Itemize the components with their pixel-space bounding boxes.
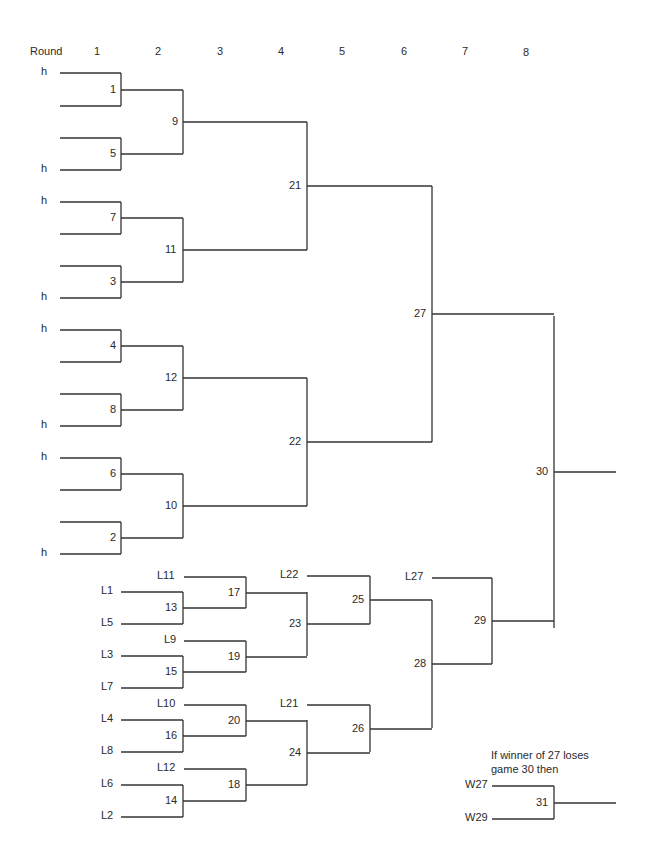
game-26-number: 26 [352,722,364,734]
round-header-label: Round [30,45,62,57]
entrant-label-l5: L5 [101,616,113,628]
entrant-label-h: h [41,194,47,206]
game-31-number: 31 [536,796,548,808]
entrant-label-w29: W29 [465,811,488,823]
final-note-line-2: game 30 then [491,762,589,776]
game-19-number: 19 [228,650,240,662]
round-6-header: 6 [398,45,410,57]
round-2-header: 2 [152,45,164,57]
game-7-number: 7 [110,211,116,223]
game-16-number: 16 [165,729,177,741]
entrant-label-l8: L8 [101,744,113,756]
game-5-number: 5 [110,147,116,159]
entrant-label-l9: L9 [164,633,176,645]
game-24-number: 24 [289,746,301,758]
game-14-number: 14 [165,794,177,806]
entrant-label-w27: W27 [465,778,488,790]
game-11-number: 11 [165,243,176,255]
tournament-bracket [0,0,651,860]
entrant-label-l7: L7 [101,680,113,692]
game-25-number: 25 [352,593,364,605]
game-21-number: 21 [289,179,301,191]
game-2-number: 2 [110,531,116,543]
game-18-number: 18 [228,778,240,790]
entrant-label-h: h [41,290,47,302]
entrant-label-h: h [41,162,47,174]
round-1-header: 1 [91,45,103,57]
game-23-number: 23 [289,617,301,629]
entrant-label-h: h [41,418,47,430]
game-29-number: 29 [474,614,486,626]
entrant-label-l21: L21 [280,697,298,709]
game-30-number: 30 [536,465,548,477]
game-10-number: 10 [165,499,177,511]
game-6-number: 6 [110,467,116,479]
entrant-label-l2: L2 [101,809,113,821]
entrant-label-l27: L27 [405,570,423,582]
entrant-label-l3: L3 [101,648,113,660]
game-8-number: 8 [110,403,116,415]
game-20-number: 20 [228,714,240,726]
entrant-label-l22: L22 [280,568,298,580]
game-22-number: 22 [289,435,301,447]
game-1-number: 1 [110,83,116,95]
game-27-number: 27 [414,307,426,319]
entrant-label-l10: L10 [157,697,175,709]
entrant-label-h: h [41,546,47,558]
round-4-header: 4 [275,45,287,57]
game-9-number: 9 [172,115,178,127]
final-note: If winner of 27 loses game 30 then [491,748,589,776]
game-17-number: 17 [228,586,240,598]
round-5-header: 5 [336,45,348,57]
game-13-number: 13 [165,601,177,613]
game-4-number: 4 [110,339,116,351]
round-8-header: 8 [520,46,532,58]
entrant-label-h: h [41,65,47,77]
final-note-line-1: If winner of 27 loses [491,748,589,762]
round-7-header: 7 [459,45,471,57]
game-28-number: 28 [414,657,426,669]
game-12-number: 12 [165,371,177,383]
entrant-label-l6: L6 [101,777,113,789]
entrant-label-l11: L11 [157,569,175,581]
game-15-number: 15 [165,665,177,677]
entrant-label-h: h [41,450,47,462]
game-3-number: 3 [110,275,116,287]
entrant-label-h: h [41,322,47,334]
round-3-header: 3 [214,45,226,57]
entrant-label-l4: L4 [101,712,113,724]
entrant-label-l1: L1 [101,584,113,596]
entrant-label-l12: L12 [157,761,175,773]
